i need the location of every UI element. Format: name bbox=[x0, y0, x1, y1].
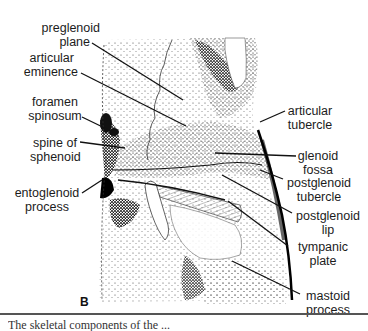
anatomy-figure: preglenoid plane articular eminence fora… bbox=[0, 0, 368, 331]
label-tympanic-plate: tympanic plate bbox=[298, 240, 348, 268]
label-spine-of-sphenoid: spine of sphenoid bbox=[30, 136, 80, 164]
label-line: lip bbox=[293, 223, 363, 237]
label-line: articular bbox=[22, 51, 78, 65]
label-line: articular bbox=[284, 104, 336, 118]
label-line: spinosum bbox=[27, 109, 83, 123]
caption-divider bbox=[0, 313, 368, 315]
label-line: sphenoid bbox=[30, 150, 80, 164]
label-articular-eminence: articular eminence bbox=[22, 51, 78, 79]
label-entoglenoid-process: entoglenoid process bbox=[12, 186, 82, 214]
label-glenoid-fossa: glenoid fossa bbox=[295, 149, 341, 177]
label-line: tubercle bbox=[284, 118, 336, 132]
panel-letter: B bbox=[80, 295, 89, 309]
label-line: process bbox=[12, 200, 82, 214]
label-line: plate bbox=[298, 254, 348, 268]
label-line: preglenoid bbox=[38, 21, 100, 35]
label-line: glenoid bbox=[295, 149, 341, 163]
label-foramen-spinosum: foramen spinosum bbox=[27, 95, 83, 123]
label-articular-tubercle: articular tubercle bbox=[284, 104, 336, 132]
label-postglenoid-tubercle: postglenoid tubercle bbox=[284, 176, 354, 204]
label-line: spine of bbox=[30, 136, 80, 150]
label-line: eminence bbox=[22, 65, 78, 79]
label-line: foramen bbox=[27, 95, 83, 109]
figure-caption: The skeletal components of the ... bbox=[8, 318, 368, 331]
label-line: postglenoid bbox=[293, 209, 363, 223]
label-line: tympanic bbox=[298, 240, 348, 254]
label-line: fossa bbox=[295, 163, 341, 177]
label-line: entoglenoid bbox=[12, 186, 82, 200]
label-postglenoid-lip: postglenoid lip bbox=[293, 209, 363, 237]
label-line: tubercle bbox=[284, 190, 354, 204]
label-line: postglenoid bbox=[284, 176, 354, 190]
label-line: mastoid bbox=[303, 289, 353, 303]
label-preglenoid-plane: preglenoid plane bbox=[38, 21, 100, 49]
label-line: plane bbox=[38, 35, 100, 49]
